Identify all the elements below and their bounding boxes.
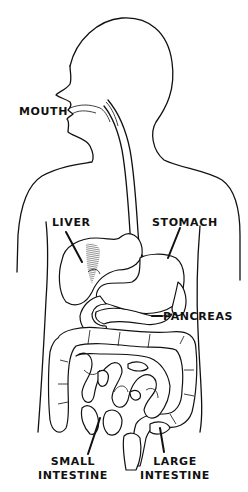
label-large-intestine-line1: LARGE [138,455,212,469]
label-small-intestine: SMALL INTESTINE [36,455,110,483]
label-small-intestine-line1: SMALL [36,455,110,469]
oral-cavity [70,105,110,122]
label-large-intestine: LARGE INTESTINE [138,455,212,483]
label-stomach: STOMACH [152,217,218,229]
tongue [72,111,96,114]
torso-left-side [38,222,48,432]
label-mouth: MOUTH [19,106,68,118]
label-large-intestine-line2: INTESTINE [138,469,212,483]
torso-right-side [197,226,202,432]
label-small-intestine-line2: INTESTINE [36,469,110,483]
label-liver: LIVER [52,217,91,229]
stomach-leader [168,228,180,258]
small-intestine [76,353,170,435]
digestive-system-diagram [0,0,248,492]
label-pancreas: PANCREAS [163,311,233,323]
